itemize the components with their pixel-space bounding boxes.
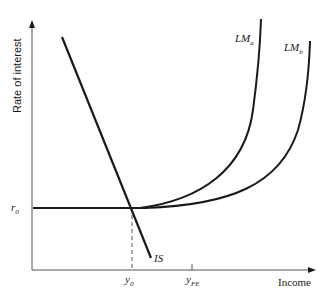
x-axis-label: Income	[278, 277, 311, 288]
yfe-label: yFE	[186, 274, 199, 288]
r0-subscript: 0	[15, 208, 19, 216]
lm-a-curve	[140, 19, 261, 208]
lm-b-text: LM	[284, 41, 299, 53]
x-axis-arrow-icon	[308, 267, 316, 273]
is-label: IS	[154, 253, 163, 264]
lm-a-subscript: a	[250, 39, 254, 47]
lm-b-subscript: b	[299, 48, 303, 56]
r0-label: r0	[11, 202, 19, 216]
y-axis-label: Rate of interest	[12, 38, 23, 113]
y0-subscript: 0	[130, 280, 134, 288]
is-curve	[62, 37, 151, 258]
yfe-subscript: FE	[191, 280, 200, 288]
lm-a-label: LMa	[235, 33, 254, 47]
y-axis-arrow-icon	[29, 20, 35, 28]
lm-b-label: LMb	[284, 42, 303, 56]
lm-a-text: LM	[235, 32, 250, 44]
y0-label: y0	[125, 274, 133, 288]
lm-b-curve	[145, 41, 310, 208]
